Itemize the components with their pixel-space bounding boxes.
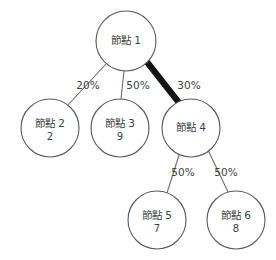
edge-n1-n4-highlighted[interactable] <box>147 62 180 104</box>
node-6[interactable]: 節點 6 8 <box>207 191 265 249</box>
node-2-value: 2 <box>47 131 53 142</box>
edge-n1-n3[interactable] <box>121 71 124 99</box>
edge-label-n1-n3: 50% <box>126 79 149 91</box>
edge-label-n4-n6: 50% <box>214 166 237 178</box>
node-3-label: 節點 3 <box>105 117 135 129</box>
node-5[interactable]: 節點 5 7 <box>128 191 186 249</box>
node-1-label: 節點 1 <box>111 34 141 46</box>
node-5-label: 節點 5 <box>142 209 172 221</box>
node-6-value: 8 <box>233 223 239 234</box>
node-6-label: 節點 6 <box>221 209 251 221</box>
edge-label-n1-n4: 30% <box>177 79 200 91</box>
node-2-label: 節點 2 <box>35 117 65 129</box>
node-5-value: 7 <box>154 223 160 234</box>
decision-tree-diagram: 節點 1 節點 2 2 節點 3 9 節點 4 節點 5 7 節點 6 8 <box>0 0 276 260</box>
node-1[interactable]: 節點 1 <box>96 11 156 71</box>
edge-label-n4-n5: 50% <box>171 166 194 178</box>
node-4-label: 節點 4 <box>176 121 206 133</box>
node-3[interactable]: 節點 3 9 <box>91 99 149 157</box>
node-4[interactable]: 節點 4 <box>162 99 220 157</box>
node-3-value: 9 <box>117 131 123 142</box>
edge-label-n1-n2: 20% <box>76 79 99 91</box>
node-2[interactable]: 節點 2 2 <box>21 99 79 157</box>
node-layer: 節點 1 節點 2 2 節點 3 9 節點 4 節點 5 7 節點 6 8 <box>21 11 265 249</box>
